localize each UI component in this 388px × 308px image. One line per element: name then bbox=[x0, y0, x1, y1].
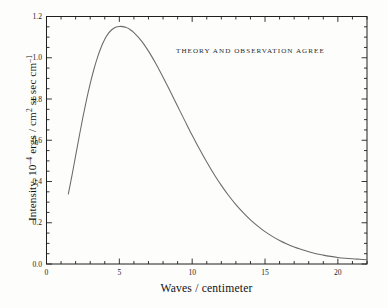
x-tick-label: 15 bbox=[261, 268, 269, 277]
y-axis-exponent-1: –4 bbox=[25, 157, 34, 165]
x-tick-label: 5 bbox=[117, 268, 121, 277]
y-axis-title-post: sr sec cm bbox=[26, 63, 38, 108]
blackbody-spectrum-figure: 051015200.00.20.40.60.81.01.2 Intensity,… bbox=[0, 0, 388, 308]
x-tick-label: 0 bbox=[45, 268, 49, 277]
spectrum-curve bbox=[68, 26, 367, 259]
y-axis-title-mid: ergs / cm bbox=[26, 112, 38, 157]
y-axis-title: Intensity, 10–4 ergs / cm2 sr sec cm–1 bbox=[26, 10, 38, 266]
y-axis-exponent-3: –1 bbox=[25, 55, 34, 63]
chart-annotation: THEORY AND OBSERVATION AGREE bbox=[176, 47, 325, 55]
y-axis-exponent-2: 2 bbox=[25, 108, 34, 112]
data-curve bbox=[68, 26, 367, 259]
x-tick-label: 10 bbox=[188, 268, 196, 277]
y-axis-title-text: Intensity, 10 bbox=[26, 165, 38, 222]
x-axis-title: Waves / centimeter bbox=[46, 282, 367, 295]
x-tick-label: 20 bbox=[334, 268, 342, 277]
